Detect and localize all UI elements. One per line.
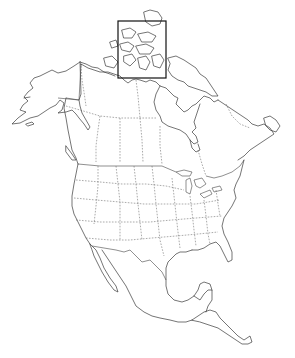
- baffin-island: [168, 56, 218, 96]
- yucatan: [194, 290, 212, 312]
- bc-alberta-border: [96, 116, 100, 162]
- yukon-nwt-border: [81, 66, 86, 106]
- great-lakes: [176, 170, 222, 198]
- central-america: [192, 310, 252, 344]
- hudson-bay: [154, 86, 200, 144]
- us-west-coast: [72, 164, 90, 244]
- bc-coast: [64, 98, 78, 164]
- sask-manitoba-border: [140, 118, 143, 162]
- labrador-quebec-coast: [218, 100, 274, 160]
- nwt-nunavut-border: [136, 80, 140, 118]
- us-canada-border: [78, 164, 176, 172]
- ontario-quebec-border: [198, 150, 206, 176]
- canada-arctic-coast: [81, 64, 218, 112]
- manitoba-ontario-border: [160, 126, 162, 164]
- north-america-outline-map: [0, 0, 295, 358]
- canada-territory-border-60n: [66, 106, 156, 118]
- us-state-borders: [74, 166, 222, 256]
- gulf-coast: [166, 250, 212, 302]
- us-east-coast: [192, 160, 244, 262]
- us-canada-border-east: [206, 160, 244, 178]
- alaska-north-coast: [80, 62, 115, 76]
- alaska-canada-border: [58, 64, 81, 100]
- vancouver-island: [66, 146, 76, 160]
- alaska-coast: [12, 62, 90, 130]
- newfoundland: [264, 116, 280, 132]
- arctic-islands: [104, 10, 164, 70]
